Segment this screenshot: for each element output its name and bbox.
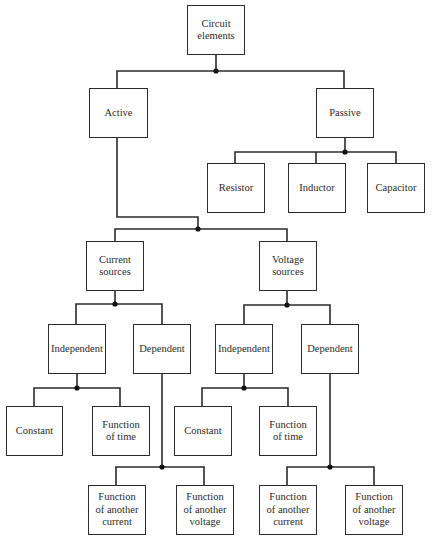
node-cs-function-of-another-current: Function of another current (88, 485, 146, 535)
junction-dot (195, 226, 200, 231)
junction-dot (159, 464, 164, 469)
node-vs-function-of-another-current: Function of another current (259, 485, 317, 535)
junction-dot (74, 385, 79, 390)
node-current-constant: Constant (6, 406, 63, 456)
node-voltage-dependent: Dependent (301, 324, 359, 374)
node-resistor: Resistor (207, 163, 265, 213)
node-voltage-constant: Constant (174, 406, 232, 456)
node-capacitor: Capacitor (367, 163, 425, 213)
node-voltage-function-of-time: Function of time (259, 406, 317, 456)
node-passive: Passive (316, 88, 374, 138)
node-cs-function-of-another-voltage: Function of another voltage (176, 485, 234, 535)
junction-dot (284, 302, 289, 307)
junction-dot (327, 464, 332, 469)
connector-lines (0, 0, 434, 541)
node-circuit-elements: Circuit elements (187, 5, 245, 55)
node-active: Active (89, 88, 148, 138)
node-current-sources: Current sources (86, 241, 144, 291)
junction-dot (112, 301, 117, 306)
junction-dot (213, 68, 218, 73)
node-vs-function-of-another-voltage: Function of another voltage (345, 485, 403, 535)
junction-dot (342, 149, 347, 154)
node-voltage-sources: Voltage sources (259, 241, 317, 291)
node-inductor: Inductor (288, 163, 346, 213)
junction-dot (241, 385, 246, 390)
node-voltage-independent: Independent (215, 324, 273, 374)
node-current-dependent: Dependent (133, 324, 191, 374)
node-current-function-of-time: Function of time (92, 406, 150, 456)
node-current-independent: Independent (48, 324, 106, 374)
